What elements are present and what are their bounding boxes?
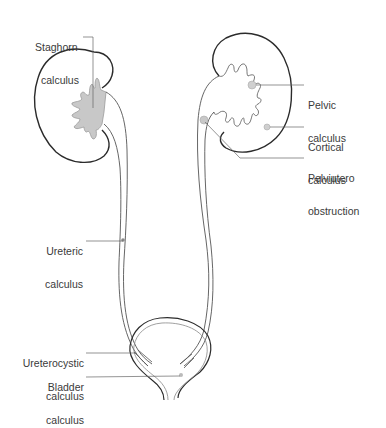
left-ureter-inner [104,124,148,366]
label-pelviutero-obstruction: Pelviutero obstruction [308,151,359,239]
label-staghorn-calculus: Staghorn calculus [35,20,79,108]
leader-lines [83,37,304,377]
label-bladder-calculus: Bladder calculus [0,360,84,428]
bladder-inner [134,323,207,400]
bladder-outer [130,318,211,400]
right-kidney [213,33,292,152]
cortical-calculus-stone [264,124,270,130]
pelvic-calculus-stone [248,81,256,89]
label-ureteric-calculus: Ureteric calculus [30,224,83,312]
pelviutero-obstruction-stone [200,116,208,124]
right-ureter-inner [184,112,214,366]
bladder-leader [86,376,180,377]
right-kidney-calyces [214,64,261,126]
bladder-calculus-stone [179,373,183,377]
right-ureter-orifice [180,354,194,368]
